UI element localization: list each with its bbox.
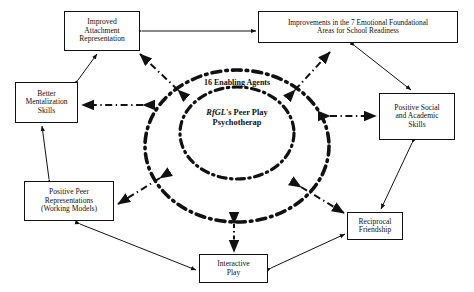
node-label-line: (Working Models) — [27, 205, 111, 214]
node-label-line: Areas for School Readiness — [261, 27, 455, 35]
inner-ellipse — [180, 87, 294, 179]
edge-peer-interactive — [80, 224, 196, 270]
node-positive-social-academic-skills[interactable]: Positive Social and Academic Skills — [379, 93, 455, 140]
core-brand-suffix: 's — [226, 108, 232, 117]
diagram-canvas: Improved Attachment Representation Impro… — [0, 0, 474, 292]
edge-improvements-social — [355, 46, 411, 90]
node-label-line: Friendship — [350, 226, 400, 235]
node-positive-peer-representations[interactable]: Positive Peer Representations (Working M… — [24, 181, 114, 221]
outer-ellipse-label: 16 Enabling Agents — [157, 78, 317, 88]
core-line-3: Psychotherap — [213, 118, 262, 127]
node-label-line: Skills — [18, 107, 75, 116]
node-label-line: Skills — [382, 121, 452, 130]
core-brand: RfGL — [206, 108, 226, 117]
node-better-mentalization-skills[interactable]: Better Mentalization Skills — [15, 82, 78, 123]
node-improvements-seven-areas[interactable]: Improvements in the 7 Emotional Foundati… — [258, 11, 458, 43]
node-label-line: Representation — [67, 35, 137, 44]
edge-interactive-reciprocal — [271, 234, 345, 268]
edge-mentalization-peer — [42, 126, 49, 179]
node-label-line: Play — [202, 269, 265, 278]
core-line-1: RfGL's — [206, 108, 231, 117]
core-line-2: Peer Play — [234, 108, 268, 117]
outer-ellipse — [145, 70, 329, 222]
node-improved-attachment[interactable]: Improved Attachment Representation — [64, 11, 140, 51]
edge-social-reciprocal — [381, 143, 412, 209]
node-interactive-play[interactable]: Interactive Play — [199, 254, 268, 283]
edge-attachment-mentalization — [78, 54, 97, 80]
spoke-core-reciprocal — [301, 187, 344, 213]
spoke-core-peer — [118, 178, 160, 204]
inner-ellipse-label: RfGL's Peer Play Psychotherap — [182, 108, 292, 128]
node-reciprocal-friendship[interactable]: Reciprocal Friendship — [347, 212, 403, 240]
